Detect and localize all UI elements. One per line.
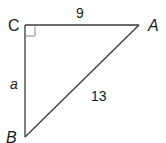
vertex-label-a: A <box>147 17 159 34</box>
right-triangle-diagram: C A B 9 a 13 <box>0 0 166 143</box>
vertex-label-c: C <box>8 17 20 34</box>
right-angle-marker <box>25 25 35 36</box>
side-label-ab: 13 <box>91 88 107 104</box>
vertex-label-b: B <box>6 129 17 143</box>
side-label-ca: 9 <box>76 5 84 21</box>
side-label-cb: a <box>10 76 18 92</box>
side-ab-hypotenuse <box>25 25 139 137</box>
